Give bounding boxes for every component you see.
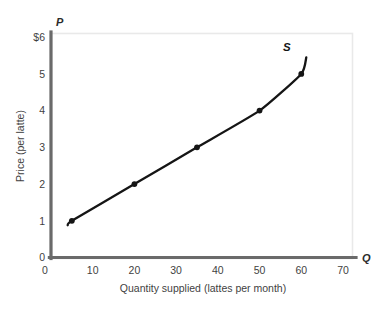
x-tick-label: 60 — [295, 264, 307, 276]
x-tick-label: 40 — [212, 264, 224, 276]
chart-canvas: P Q 012345$6 010203040506070 S Quantity … — [0, 0, 376, 312]
data-point-marker — [69, 218, 75, 224]
x-tick-label: 50 — [254, 264, 266, 276]
y-tick-label: 1 — [39, 215, 45, 227]
data-point-marker — [298, 71, 304, 77]
supply-curve-label: S — [283, 41, 291, 53]
data-point-marker — [132, 181, 138, 187]
y-tick-label: 5 — [39, 68, 45, 80]
data-point-marker — [194, 144, 200, 150]
x-axis-symbol-label: Q — [362, 252, 371, 264]
y-axis-title: Price (per latte) — [14, 110, 26, 182]
supply-curve-chart: P Q 012345$6 010203040506070 S Quantity … — [0, 0, 376, 312]
x-tick-label: 10 — [87, 264, 99, 276]
chart-background — [0, 0, 376, 312]
y-tick-label: 0 — [39, 251, 45, 263]
y-tick-label: $6 — [33, 31, 45, 43]
x-tick-label: 70 — [337, 264, 349, 276]
y-tick-label: 4 — [39, 104, 45, 116]
x-tick-label: 30 — [170, 264, 182, 276]
x-tick-label: 0 — [42, 264, 48, 276]
x-tick-label: 20 — [129, 264, 141, 276]
x-axis-title: Quantity supplied (lattes per month) — [120, 282, 286, 294]
data-point-marker — [257, 108, 263, 114]
y-axis-symbol-label: P — [56, 16, 64, 28]
y-tick-label: 3 — [39, 141, 45, 153]
y-tick-label: 2 — [39, 178, 45, 190]
